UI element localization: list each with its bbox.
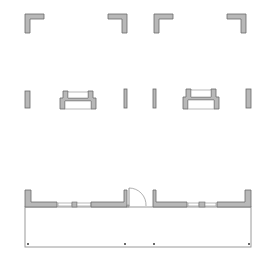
window-unit-a (60, 91, 96, 109)
window-unit-b (183, 89, 219, 109)
column-marker (27, 243, 29, 245)
room-outline (25, 207, 251, 247)
window-left-a (58, 203, 72, 206)
window-right-b (205, 203, 216, 206)
corner-top-right-b (227, 14, 246, 33)
post-right-b (246, 89, 251, 108)
post-left-a (25, 91, 30, 108)
floor-plan-canvas (0, 0, 266, 263)
post-right-a (124, 89, 127, 108)
window-pane-lower (65, 101, 91, 109)
corner-top-right-a (108, 14, 127, 33)
window-pane-lower (188, 100, 214, 109)
column-marker (248, 243, 250, 245)
window-right-a (188, 203, 199, 206)
wall-corners (25, 14, 246, 33)
door-swing-arc (129, 188, 146, 206)
corner-top-left-b (154, 14, 173, 33)
wall-door-right (153, 190, 187, 207)
bottom-floor-plan (25, 188, 251, 247)
post-left-b (153, 89, 156, 108)
window-mullion-right (199, 202, 205, 207)
corner-top-left-a (25, 14, 44, 33)
wall-left-segment (25, 190, 57, 207)
window-units (60, 89, 219, 109)
window-left-b (77, 203, 91, 206)
column-marker (124, 243, 126, 245)
window-pane-upper (68, 92, 88, 98)
window-pane-upper (191, 90, 211, 97)
wall-door-left (91, 190, 127, 207)
door-jamb-left (127, 205, 129, 207)
column-marker (153, 243, 155, 245)
wall-right-segment (217, 190, 251, 207)
window-mullion-left (72, 202, 77, 207)
